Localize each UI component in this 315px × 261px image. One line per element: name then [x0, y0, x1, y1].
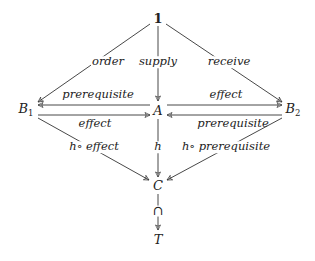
node-B2: B2 — [286, 102, 301, 118]
label-B2-A-prerequisite: prerequisite — [196, 118, 269, 130]
label-A-C: h — [153, 141, 162, 153]
node-B1-subscript: 1 — [28, 108, 33, 118]
label-A-B2-effect: effect — [209, 89, 244, 101]
node-C: C — [153, 179, 163, 192]
commutative-diagram: 1 A B1 B2 C T ⊂ order supply receive pre… — [0, 0, 315, 261]
node-T: T — [154, 233, 163, 246]
node-B1-base: B — [19, 101, 29, 116]
inclusion-symbol: ⊂ — [151, 206, 166, 217]
label-supply: supply — [138, 56, 178, 68]
label-A-B1-prerequisite: prerequisite — [61, 89, 134, 101]
node-B1: B1 — [19, 102, 34, 118]
label-B1-A-effect: effect — [78, 118, 113, 130]
node-B2-subscript: 2 — [295, 108, 300, 118]
diagram-edges — [0, 0, 315, 261]
node-one: 1 — [153, 12, 162, 25]
label-B2-C: h∘ prerequisite — [181, 141, 271, 153]
label-receive: receive — [207, 56, 252, 68]
label-order: order — [91, 56, 125, 68]
node-B2-base: B — [286, 101, 296, 116]
node-A: A — [153, 104, 162, 117]
label-B1-C: h∘ effect — [68, 141, 120, 153]
